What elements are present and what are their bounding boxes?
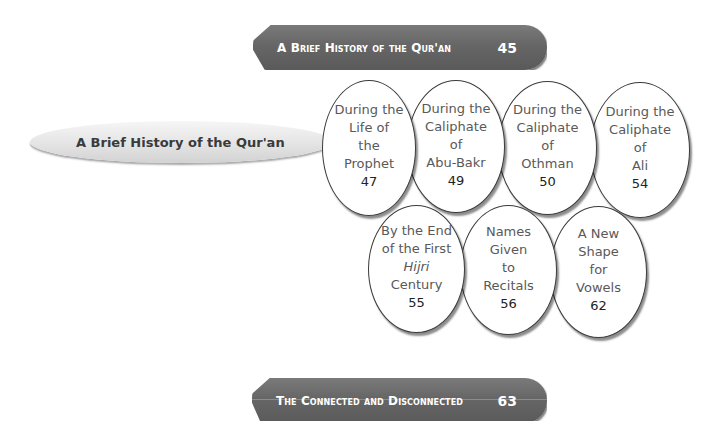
subsection-page-number: 50 [539,173,556,191]
subsection-label: Life of [349,119,389,137]
subsection-caliphate-othman[interactable]: During the Caliphate of Othman 50 [498,81,597,215]
divider-line [252,399,547,400]
chapter-page-number: 63 [487,393,517,409]
subsection-page-number: 47 [361,173,378,191]
subsection-label: Abu-Bakr [426,154,485,172]
subsection-label: During the [334,101,403,119]
subsection-label: A New [578,225,619,243]
subsection-caliphate-ali[interactable]: During the Caliphate of Ali 54 [590,82,690,218]
subsection-label: During the [605,103,674,121]
subsection-label: Shape [578,243,619,261]
subsection-label: Century [391,276,443,294]
section-title: A Brief History of the Qur'an [76,135,285,150]
subsection-page-number: 55 [408,294,425,312]
subsection-label: During the [421,100,490,118]
subsection-label: Othman [521,155,573,173]
subsection-label: Recitals [483,277,534,295]
subsection-label: of [450,136,463,154]
section-ellipse[interactable]: A Brief History of the Qur'an 47 [30,121,332,163]
subsection-label: Ali [632,157,648,175]
subsection-page-number: 56 [500,295,517,313]
subsection-page-number: 49 [448,172,465,190]
subsection-label: Prophet [344,155,394,173]
chapter-page-number: 45 [487,40,517,56]
subsection-page-number: 54 [632,175,649,193]
subsection-label: By the End [381,222,452,240]
subsection-label: for [590,261,608,279]
subsection-label: During the [513,101,582,119]
subsection-label: to [502,259,515,277]
chapter-bar-top[interactable]: A Brief History of the Qur'an 45 [253,25,547,70]
chapter-title: The Connected and Disconnected [276,394,487,408]
subsection-label: Hijri [404,258,430,276]
subsection-life-of-prophet[interactable]: During the Life of the Prophet 47 [322,80,416,216]
subsection-page-number: 62 [590,297,607,315]
subsection-label: of [541,137,554,155]
chapter-bar-next[interactable]: The Connected and Disconnected 63 [252,378,547,421]
subsection-label: of [634,139,647,157]
subsection-label: Given [490,241,528,259]
subsection-label: Vowels [576,279,621,297]
chapter-title: A Brief History of the Qur'an [277,41,487,55]
subsection-caliphate-abu-bakr[interactable]: During the Caliphate of Abu-Bakr 49 [407,80,505,213]
subsection-label: Caliphate [517,119,579,137]
subsection-label: of the First [382,240,452,258]
subsection-label: Names [486,223,531,241]
subsection-label: Caliphate [609,121,671,139]
subsection-label: Caliphate [425,118,487,136]
subsection-names-given-to-recitals[interactable]: Names Given to Recitals 56 [460,205,557,335]
subsection-label: the [358,137,379,155]
subsection-new-shape-for-vowels[interactable]: A New Shape for Vowels 62 [550,206,647,338]
subsection-end-first-hijri-century[interactable]: By the End of the First Hijri Century 55 [368,205,465,333]
